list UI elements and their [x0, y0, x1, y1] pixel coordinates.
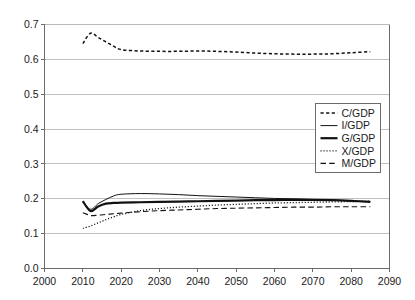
chart-container: 0.00.10.20.30.40.50.60.7 200020102020203… — [0, 0, 415, 300]
x-tick-label: 2000 — [33, 275, 57, 287]
series-line-c-gdp — [83, 33, 371, 54]
legend-label-x-gdp: X/GDP — [342, 145, 375, 157]
y-tick-label: 0.1 — [24, 227, 39, 239]
y-tick-label: 0.4 — [24, 123, 39, 135]
x-tick-label: 2020 — [109, 275, 133, 287]
y-tick-label: 0.5 — [24, 88, 39, 100]
y-tick-label: 0.3 — [24, 158, 39, 170]
y-tick-label: 0.0 — [24, 262, 39, 274]
x-tick-label: 2030 — [148, 275, 172, 287]
series-line-x-gdp — [83, 201, 371, 228]
legend-label-m-gdp: M/GDP — [342, 157, 376, 169]
x-tick-label: 2050 — [224, 275, 248, 287]
x-tick-label: 2070 — [301, 275, 325, 287]
x-axis-tick-labels: 2000201020202030204020502060207020802090 — [33, 275, 402, 287]
line-chart: 0.00.10.20.30.40.50.60.7 200020102020203… — [0, 0, 415, 300]
x-tick-label: 2040 — [186, 275, 210, 287]
series-line-g-gdp — [83, 200, 371, 211]
y-tick-label: 0.6 — [24, 53, 39, 65]
chart-legend: C/GDPI/GDPG/GDPX/GDPM/GDP — [316, 104, 381, 173]
legend-label-i-gdp: I/GDP — [342, 119, 371, 131]
legend-label-c-gdp: C/GDP — [342, 107, 375, 119]
x-tick-label: 2090 — [378, 275, 402, 287]
x-tick-label: 2060 — [263, 275, 287, 287]
y-axis-tick-labels: 0.00.10.20.30.40.50.60.7 — [24, 18, 39, 274]
x-tick-label: 2010 — [71, 275, 95, 287]
legend-label-g-gdp: G/GDP — [342, 132, 376, 144]
y-tick-label: 0.2 — [24, 192, 39, 204]
x-tick-label: 2080 — [339, 275, 363, 287]
y-tick-label: 0.7 — [24, 18, 39, 30]
series-line-m-gdp — [83, 207, 371, 216]
